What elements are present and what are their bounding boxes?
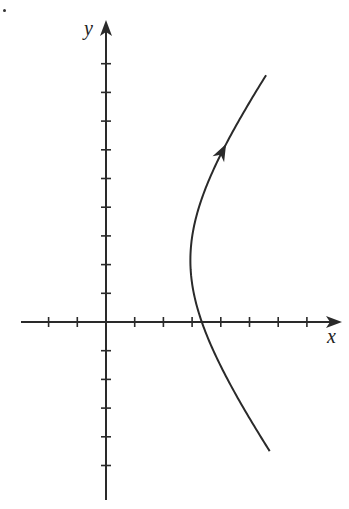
tick-marks xyxy=(49,64,307,466)
axes xyxy=(21,20,342,500)
hyperbola-diagram xyxy=(0,0,349,509)
hyperbola-curve xyxy=(190,75,269,451)
y-axis-label: y xyxy=(84,18,93,38)
x-axis-label: x xyxy=(327,326,336,346)
